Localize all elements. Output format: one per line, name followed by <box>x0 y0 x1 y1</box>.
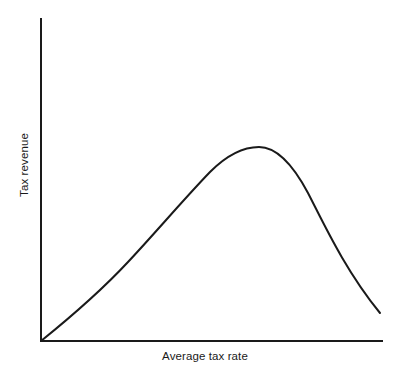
laffer-curve-figure: Average tax rate Tax revenue <box>0 0 404 376</box>
chart-background <box>0 0 404 376</box>
y-axis-label: Tax revenue <box>18 85 34 245</box>
chart-canvas <box>0 0 404 376</box>
x-axis-label: Average tax rate <box>0 350 404 362</box>
